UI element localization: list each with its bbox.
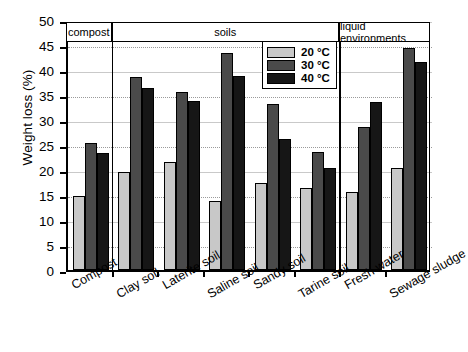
y-axis-label: 30 [2, 115, 54, 129]
bar [176, 92, 188, 270]
bar-group [341, 20, 387, 270]
legend-swatch [267, 47, 295, 58]
y-axis-label: 45 [2, 40, 54, 54]
x-axis-tick [339, 272, 341, 277]
y-axis-label: 20 [2, 165, 54, 179]
bar [97, 153, 109, 270]
bar [403, 48, 415, 271]
bar-group [205, 20, 251, 270]
legend-label: 20 °C [301, 46, 330, 58]
bar [73, 196, 85, 271]
y-axis-label: 5 [2, 240, 54, 254]
bar [346, 192, 358, 270]
y-axis-label: 35 [2, 90, 54, 104]
bar-group [159, 20, 205, 270]
bar [267, 104, 279, 270]
legend-item: 20 °C [267, 46, 330, 58]
y-axis-tick [60, 272, 66, 274]
bar [85, 143, 97, 270]
bar-series-container [68, 20, 432, 270]
bar [233, 76, 245, 270]
bar [312, 152, 324, 270]
bar [118, 172, 130, 271]
x-axis-tick [112, 272, 114, 277]
group-band: compost [66, 22, 112, 42]
bar [188, 101, 200, 270]
bar [370, 102, 382, 270]
bar [415, 62, 427, 271]
group-band: liquid environments [339, 22, 430, 42]
group-separator [112, 22, 114, 272]
bar [279, 139, 291, 270]
bar-group [114, 20, 160, 270]
bar [358, 127, 370, 270]
x-axis-tick [294, 272, 296, 277]
plot-right-border [429, 22, 430, 272]
group-separator [339, 22, 341, 272]
bar [221, 53, 233, 270]
y-axis-label: 50 [2, 15, 54, 29]
legend-item: 40 °C [267, 72, 330, 84]
x-axis-tick [203, 272, 205, 277]
bar [164, 162, 176, 270]
legend-label: 40 °C [301, 72, 330, 84]
bar-group [68, 20, 114, 270]
plot-area [66, 22, 430, 272]
legend-label: 30 °C [301, 59, 330, 71]
x-axis-tick [248, 272, 250, 277]
bar [142, 88, 154, 270]
x-axis-tick [385, 272, 387, 277]
legend: 20 °C30 °C40 °C [262, 41, 337, 89]
legend-item: 30 °C [267, 59, 330, 71]
y-axis-label: 15 [2, 190, 54, 204]
y-axis-label: 0 [2, 265, 54, 279]
bar-group [387, 20, 433, 270]
group-band: soils [112, 22, 340, 42]
bar [255, 183, 267, 271]
y-axis-label: 25 [2, 140, 54, 154]
bar [130, 77, 142, 271]
y-axis-label: 40 [2, 65, 54, 79]
bar [324, 168, 336, 271]
x-axis-tick [157, 272, 159, 277]
legend-swatch [267, 60, 295, 71]
y-axis-label: 10 [2, 215, 54, 229]
legend-swatch [267, 73, 295, 84]
